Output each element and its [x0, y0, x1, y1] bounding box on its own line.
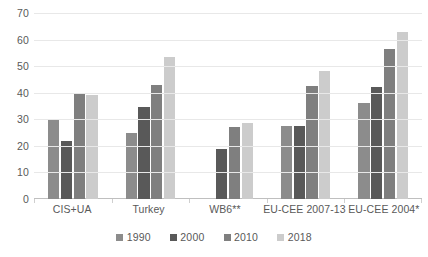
y-axis: 010203040506070 — [0, 0, 34, 222]
legend-item-2018[interactable]: 2018 — [277, 231, 312, 243]
bar-2000-turkey[interactable] — [138, 107, 149, 199]
x-axis-category-label: CIS+UA — [34, 203, 110, 215]
gridline — [34, 66, 422, 67]
legend-label: 1990 — [127, 231, 151, 243]
y-axis-tick-label: 30 — [17, 113, 29, 125]
bar-2010-eu-cee-2007-13[interactable] — [306, 86, 317, 199]
y-axis-tick-label: 50 — [17, 60, 29, 72]
bar-groups — [34, 13, 422, 199]
gridline — [34, 172, 422, 173]
bar-2018-wb6[interactable] — [242, 123, 253, 199]
bar-2010-eu-cee-2004[interactable] — [384, 49, 395, 199]
gridline — [34, 13, 422, 14]
bar-group-cis-ua — [34, 13, 112, 199]
bar-2000-wb6[interactable] — [216, 149, 227, 199]
y-axis-tick-label: 70 — [17, 7, 29, 19]
bar-chart: 010203040506070 CIS+UATurkeyWB6**EU-CEE … — [0, 0, 428, 257]
bar-group-wb6 — [189, 13, 267, 199]
plot-wrapper: 010203040506070 CIS+UATurkeyWB6**EU-CEE … — [0, 0, 428, 222]
legend-item-2000[interactable]: 2000 — [170, 231, 205, 243]
plot-area — [34, 13, 422, 199]
bar-1990-eu-cee-2007-13[interactable] — [281, 126, 292, 199]
y-axis-tick-label: 20 — [17, 140, 29, 152]
bar-2018-turkey[interactable] — [164, 57, 175, 199]
legend-item-2010[interactable]: 2010 — [224, 231, 259, 243]
y-axis-tick-label: 0 — [23, 193, 29, 205]
y-axis-tick-label: 10 — [17, 166, 29, 178]
bars — [358, 13, 408, 199]
bars — [281, 13, 331, 199]
gridline — [34, 40, 422, 41]
x-axis-category-label: EU-CEE 2007-13 — [263, 203, 346, 215]
bar-1990-eu-cee-2004[interactable] — [358, 103, 369, 199]
bar-2018-eu-cee-2007-13[interactable] — [319, 71, 330, 199]
bar-2000-eu-cee-2004[interactable] — [371, 87, 382, 199]
x-axis-labels: CIS+UATurkeyWB6**EU-CEE 2007-13EU-CEE 20… — [34, 203, 422, 215]
bar-group-eu-cee-2004 — [344, 13, 422, 199]
legend-swatch-icon — [224, 234, 231, 241]
legend-swatch-icon — [116, 234, 123, 241]
bar-2018-eu-cee-2004[interactable] — [397, 32, 408, 199]
x-axis-category-label: WB6** — [187, 203, 263, 215]
gridline — [34, 146, 422, 147]
bar-2010-turkey[interactable] — [151, 85, 162, 199]
bars — [48, 13, 98, 199]
legend-label: 2010 — [234, 231, 258, 243]
bar-group-eu-cee-2007-13 — [267, 13, 345, 199]
bars — [126, 13, 176, 199]
x-axis-category-label: EU-CEE 2004* — [346, 203, 422, 215]
legend-swatch-icon — [277, 234, 284, 241]
bar-2000-cis-ua[interactable] — [61, 141, 72, 199]
legend-item-1990[interactable]: 1990 — [116, 231, 151, 243]
legend-label: 2000 — [180, 231, 204, 243]
y-axis-tick-label: 40 — [17, 87, 29, 99]
bar-group-turkey — [112, 13, 190, 199]
legend-swatch-icon — [170, 234, 177, 241]
bar-2018-cis-ua[interactable] — [86, 95, 97, 199]
gridline — [34, 119, 422, 120]
bar-1990-turkey[interactable] — [126, 133, 137, 199]
x-axis-category-label: Turkey — [110, 203, 186, 215]
gridline — [34, 93, 422, 94]
bars — [203, 13, 253, 199]
bar-2000-eu-cee-2007-13[interactable] — [294, 126, 305, 199]
legend-label: 2018 — [288, 231, 312, 243]
y-axis-tick-label: 60 — [17, 34, 29, 46]
bar-1990-cis-ua[interactable] — [48, 119, 59, 199]
bar-2010-wb6[interactable] — [229, 127, 240, 199]
chart-legend: 1990200020102018 — [0, 231, 428, 243]
